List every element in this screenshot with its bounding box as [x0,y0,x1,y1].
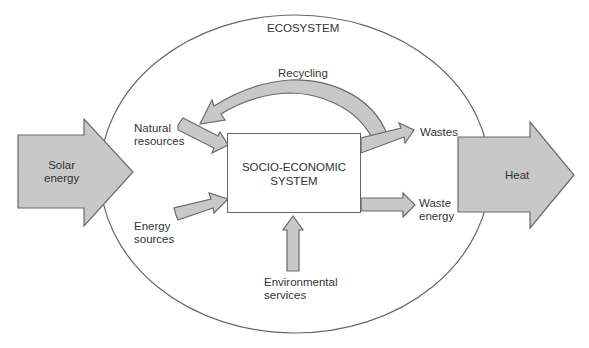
environmental-services-line2: services [264,289,338,302]
recycling-label: Recycling [278,67,328,80]
energy-sources-label: Energy sources [134,220,174,246]
environmental-services-label: Environmental services [264,276,338,302]
energy-sources-line1: Energy [134,220,174,233]
waste-energy-line2: energy [419,210,454,223]
energy-sources-line2: sources [134,233,174,246]
socio-economic-system-box: SOCIO-ECONOMIC SYSTEM [227,133,361,213]
natural-resources-line2: resources [134,135,185,148]
waste-energy-label: Waste energy [419,197,454,223]
wastes-label: Wastes [420,126,458,139]
solar-energy-label: Solar energy [44,159,79,185]
natural-resources-label: Natural resources [134,122,185,148]
recycling-arrow [200,80,388,140]
waste-energy-line1: Waste [419,197,454,210]
heat-label: Heat [505,169,529,182]
waste-energy-arrow [361,193,415,217]
solar-energy-line1: Solar [44,159,79,172]
environmental-services-line1: Environmental [264,276,338,289]
ecosystem-label: ECOSYSTEM [267,22,339,35]
environmental-services-arrow [283,216,303,271]
socio-economic-line1: SOCIO-ECONOMIC [228,160,360,174]
natural-resources-line1: Natural [134,122,185,135]
socio-economic-system-label: SOCIO-ECONOMIC SYSTEM [228,160,360,188]
socio-economic-line2: SYSTEM [228,174,360,188]
energy-sources-arrow [174,193,228,220]
solar-energy-line2: energy [44,172,79,185]
